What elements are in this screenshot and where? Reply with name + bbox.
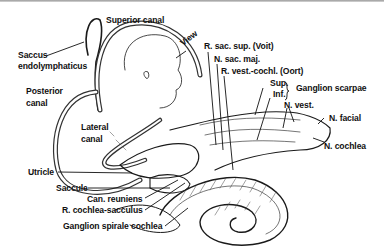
label-r-cochlea-sacculus: R. cochlea-sacculus [62,205,143,215]
label-r-sac-sup: R. sac. sup. (Voit) [204,41,274,51]
leader-n-cochlea [313,138,324,142]
leader-view [176,51,186,58]
label-can-reuniens: Can. reuniens [87,194,143,204]
label-r-vest-cochl: R. vest.-cochl. (Oort) [221,66,303,76]
leader-inf [257,98,270,140]
label-inf: Inf. [273,89,286,99]
label-posterior: Posterior [26,86,63,96]
leader-n-vest-b [289,108,294,122]
label-n-facial: N. facial [329,113,361,123]
label-lateral: Lateral [81,122,108,132]
label-ganglion-scarpae: Ganglion scarpae [296,83,367,93]
leader-ganglion-spirale [165,208,188,226]
leader-n-vest-a [283,108,287,128]
label-ganglion-spirale-cochlea: Ganglion spirale cochlea [63,221,162,231]
label-lateral-canal: canal [81,134,102,144]
leader-n-sac-maj [217,64,223,150]
head-view-shape [124,35,181,108]
label-saccule: Saccule [56,183,88,193]
label-posterior-canal: canal [26,98,47,108]
leader-utricle [58,172,132,173]
label-n-vest: N. vest. [284,100,314,110]
label-saccus: Saccus [18,50,48,60]
label-sup: Sup. [270,78,288,88]
leader-r-sac-sup [208,52,216,145]
label-superior-canal: Superior canal [106,15,164,25]
label-endolymphaticus: endolymphaticus [18,61,87,71]
label-n-cochlea: N. cochlea [324,141,366,151]
leader-sup [255,88,263,115]
leader-r-vest-cochl [224,76,233,170]
label-n-sac-maj: N. sac. maj. [214,54,260,64]
label-utricle: Utricle [28,167,54,177]
leader-saccus [46,42,84,56]
lateral-canal-shape [104,120,160,168]
